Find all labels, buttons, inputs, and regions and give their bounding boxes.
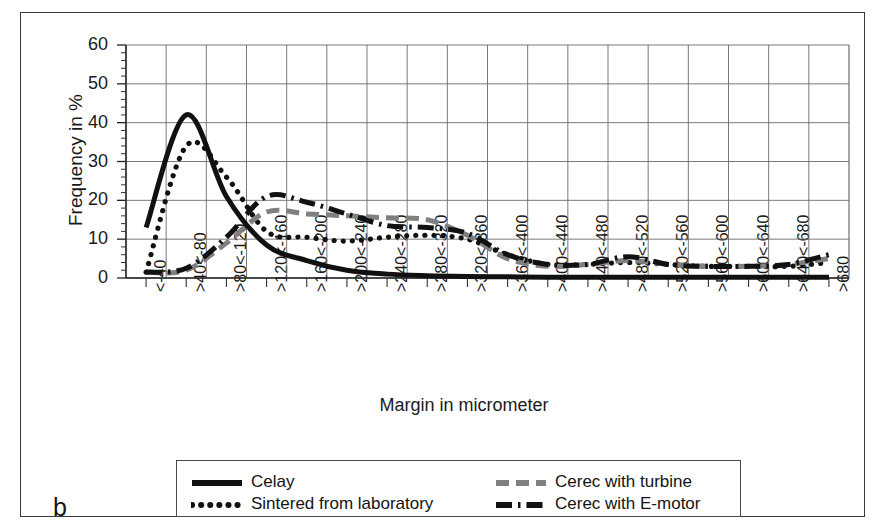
chart-legend: CelaySintered from laboratoryCerec with … xyxy=(176,460,741,517)
legend-swatch-dotted xyxy=(191,498,243,510)
legend-label: Cerec with turbine xyxy=(555,472,692,492)
legend-swatch-dashed xyxy=(495,476,547,488)
figure-frame: b Frequency in % Margin in micrometer 01… xyxy=(20,12,865,517)
legend-swatch-solid xyxy=(191,476,243,488)
legend-label: Cerec with E-motor xyxy=(555,494,700,514)
legend-label: Sintered from laboratory xyxy=(251,494,433,514)
legend-label: Celay xyxy=(251,472,294,492)
legend-swatch-dashdot xyxy=(495,498,547,510)
chart-plot-area xyxy=(21,13,866,413)
panel-label: b xyxy=(53,495,67,520)
